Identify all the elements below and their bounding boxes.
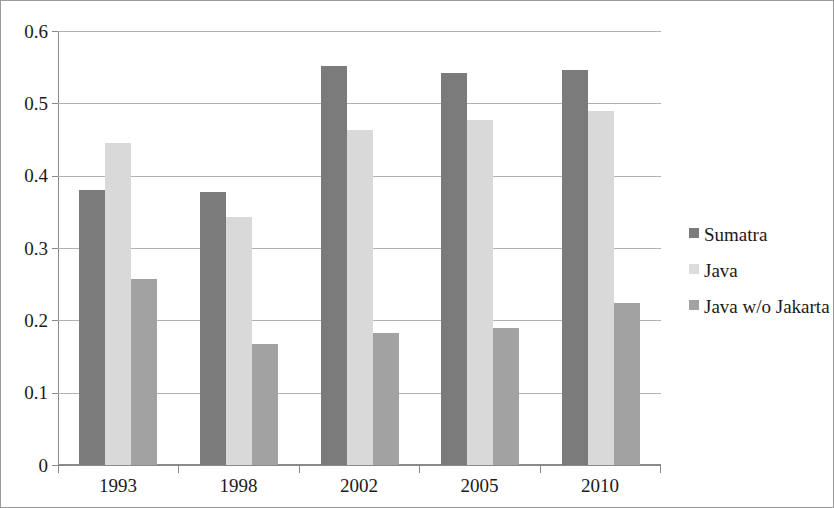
bar-1993-java-w-o-jakarta xyxy=(131,279,157,465)
bar-1998-java-w-o-jakarta xyxy=(252,344,278,466)
x-axis-tick-4 xyxy=(540,466,541,473)
x-axis-tick-end xyxy=(660,466,661,473)
y-axis-label-0_6: 0.6 xyxy=(4,22,48,41)
gridline-0_6 xyxy=(58,31,661,32)
legend-item-java-wo-jakarta: Java w/o Jakarta xyxy=(689,288,829,324)
x-axis-label-2010: 2010 xyxy=(540,475,660,497)
x-axis-tick-start xyxy=(58,466,59,473)
bar-2002-java-w-o-jakarta xyxy=(373,333,399,465)
y-axis-labels: 0.6 0.5 0.4 0.3 0.2 0.1 0 xyxy=(1,1,48,508)
legend-label-java-wo-jakarta: Java w/o Jakarta xyxy=(704,297,830,316)
y-axis-label-0_4: 0.4 xyxy=(4,166,48,185)
plot-area xyxy=(58,31,661,465)
bar-1998-java xyxy=(226,217,252,465)
legend-item-java: Java xyxy=(689,252,829,288)
bar-2005-java-w-o-jakarta xyxy=(493,328,519,465)
legend-swatch-icon-java xyxy=(689,264,699,274)
bar-2002-sumatra xyxy=(321,66,347,465)
bar-1993-java xyxy=(105,143,131,465)
legend-swatch-icon-java-wo-jakarta xyxy=(689,300,699,310)
y-axis-label-0_2: 0.2 xyxy=(4,311,48,330)
x-axis-line xyxy=(58,465,661,466)
x-axis-label-2002: 2002 xyxy=(299,475,419,497)
x-axis-tick-3 xyxy=(419,466,420,473)
legend-label-sumatra: Sumatra xyxy=(704,225,767,244)
bar-2010-java-w-o-jakarta xyxy=(614,303,640,465)
legend-label-java: Java xyxy=(704,261,738,280)
y-axis-label-0_5: 0.5 xyxy=(4,94,48,113)
bar-2005-java xyxy=(467,120,493,465)
chart-legend: Sumatra Java Java w/o Jakarta xyxy=(689,216,829,324)
bar-2002-java xyxy=(347,130,373,465)
x-axis-tick-1 xyxy=(178,466,179,473)
y-axis-label-0_1: 0.1 xyxy=(4,383,48,402)
y-axis-label-0_3: 0.3 xyxy=(4,239,48,258)
bar-1993-sumatra xyxy=(79,190,105,465)
chart-figure: 0.6 0.5 0.4 0.3 0.2 0.1 0 1993 1998 2002… xyxy=(0,0,834,508)
bar-2010-java xyxy=(588,111,614,465)
bar-2010-sumatra xyxy=(562,70,588,465)
x-axis-label-1993: 1993 xyxy=(58,475,178,497)
legend-swatch-icon-sumatra xyxy=(689,228,699,238)
x-axis-label-2005: 2005 xyxy=(419,475,540,497)
bar-2005-sumatra xyxy=(441,73,467,465)
y-axis-label-0: 0 xyxy=(4,456,48,475)
x-axis-label-1998: 1998 xyxy=(178,475,299,497)
bar-1998-sumatra xyxy=(200,192,226,465)
legend-item-sumatra: Sumatra xyxy=(689,216,829,252)
x-axis-tick-2 xyxy=(299,466,300,473)
